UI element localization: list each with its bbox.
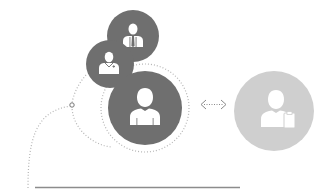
node-person-clipboard[interactable] <box>234 71 314 151</box>
dotted-path-lower <box>72 106 112 147</box>
junction-node <box>70 103 74 107</box>
node-person-main[interactable] <box>108 71 182 145</box>
dotted-path-left <box>28 106 72 188</box>
connection-diagram <box>0 0 318 192</box>
bidirectional-arrow-icon <box>201 100 226 109</box>
dotted-path-upper <box>72 75 86 104</box>
